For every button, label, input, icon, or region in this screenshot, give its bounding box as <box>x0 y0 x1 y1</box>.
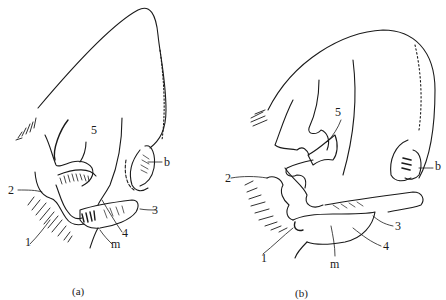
panel-a: 5 b 2 3 4 1 m (a) <box>0 0 223 300</box>
label-2: 2 <box>8 184 14 196</box>
panel-a-drawing <box>0 0 223 300</box>
label-m: m <box>330 258 339 270</box>
label-2: 2 <box>225 172 231 184</box>
label-b: b <box>164 156 170 168</box>
label-1: 1 <box>25 236 31 248</box>
label-b: b <box>435 160 441 172</box>
label-3: 3 <box>152 204 158 216</box>
label-3: 3 <box>395 220 401 232</box>
label-5: 5 <box>335 106 341 118</box>
panel-b: 5 b 2 3 4 1 m (b) <box>223 0 446 300</box>
panel-b-caption: (b) <box>295 288 308 299</box>
label-1: 1 <box>261 252 267 264</box>
label-5: 5 <box>91 124 97 136</box>
panel-a-caption: (a) <box>72 286 84 297</box>
label-4: 4 <box>383 240 389 252</box>
panel-b-drawing <box>223 0 446 300</box>
label-4: 4 <box>122 227 128 239</box>
label-m: m <box>111 238 120 250</box>
